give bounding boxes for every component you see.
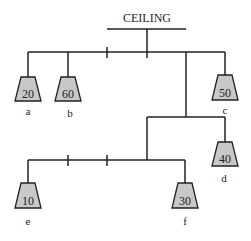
weight-b-label: b	[67, 107, 73, 119]
weight-e-value: 10	[22, 194, 34, 208]
weight-c-label: c	[223, 104, 228, 116]
weight-c: 50 c	[212, 75, 238, 116]
weight-d-value: 40	[219, 152, 231, 166]
weight-e: 10 e	[15, 183, 41, 227]
weight-f-label: f	[183, 215, 187, 227]
weight-f: 30 f	[172, 183, 198, 227]
weight-d: 40 d	[212, 142, 238, 184]
weight-a: 20 a	[15, 77, 41, 117]
weight-e-label: e	[26, 215, 31, 227]
weight-f-value: 30	[179, 194, 191, 208]
weight-a-label: a	[26, 105, 31, 117]
weight-b: 60 b	[55, 77, 81, 119]
weight-c-value: 50	[219, 86, 231, 100]
weight-b-value: 60	[62, 87, 74, 101]
mobile-rods	[28, 29, 225, 183]
mobile-diagram: CEILING 20 a 60 b 50 c 40	[0, 0, 251, 241]
weight-d-label: d	[221, 172, 227, 184]
ceiling-label: CEILING	[123, 11, 171, 25]
weight-a-value: 20	[22, 87, 34, 101]
